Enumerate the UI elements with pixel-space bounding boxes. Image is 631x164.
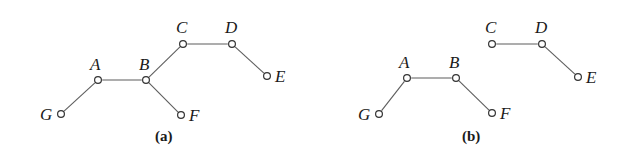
graph-node[interactable] [376,111,383,118]
node-labels-layer: GABCDEFGABCDEF [40,18,597,125]
graph-edge [149,83,178,112]
graph-node[interactable] [489,110,496,117]
panel-caption-b: (b) [462,128,480,145]
graph-edge [382,81,405,110]
graph-node-label: G [40,105,52,124]
graph-node[interactable] [229,41,236,48]
graph-node[interactable] [143,77,150,84]
graph-node[interactable] [575,74,582,81]
graph-edge [64,83,95,111]
graph-node[interactable] [178,112,185,119]
graph-node[interactable] [489,41,496,48]
graph-node[interactable] [180,41,187,48]
graph-node[interactable] [453,75,460,82]
graph-edge [149,47,180,77]
graph-node-label: E [585,68,597,87]
graph-node-label: F [499,104,511,123]
graph-node-label: A [89,55,101,74]
graph-node-label: F [188,106,200,125]
graph-node-label: B [449,53,460,72]
graph-canvas: GABCDEFGABCDEF [0,0,631,164]
graph-node[interactable] [58,111,65,118]
graph-node-label: A [398,53,410,72]
graph-edge [545,47,575,74]
graph-node[interactable] [95,77,102,84]
graph-figure: GABCDEFGABCDEF (a) (b) [0,0,631,164]
graph-node-label: B [139,55,150,74]
graph-node-label: G [358,105,370,124]
graph-edge [459,81,489,110]
panel-caption-a: (a) [155,128,173,145]
graph-node[interactable] [404,75,411,82]
graph-node-label: D [534,18,548,37]
graph-edge [235,47,264,73]
graph-node-label: C [176,18,188,37]
graph-node[interactable] [264,73,271,80]
graph-node-label: E [274,67,286,86]
graph-node[interactable] [539,41,546,48]
graph-node-label: D [224,18,238,37]
graph-node-label: C [485,18,497,37]
